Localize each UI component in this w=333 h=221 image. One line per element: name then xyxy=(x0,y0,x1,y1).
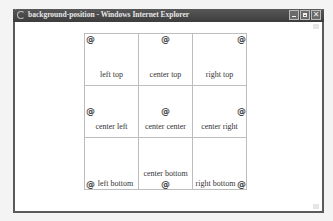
cell-left-top: @ left top xyxy=(85,34,139,86)
background-position-grid: @ left top @ center top @ right top @ ce… xyxy=(84,33,247,190)
cell-center-bottom: @ center bottom xyxy=(139,138,193,190)
at-marker-icon: @ xyxy=(161,107,169,115)
cell-right-bottom: @ right bottom xyxy=(193,138,247,190)
at-marker-icon: @ xyxy=(237,180,245,188)
cell-right-center: @ center right xyxy=(193,86,247,138)
at-marker-icon: @ xyxy=(86,35,94,43)
ie-logo-icon xyxy=(17,11,25,19)
at-marker-icon: @ xyxy=(86,107,94,115)
cell-label: left top xyxy=(85,70,138,79)
cell-label: center left xyxy=(85,122,138,131)
cell-label: right top xyxy=(193,70,246,79)
close-button[interactable]: ✕ xyxy=(311,10,321,20)
cell-left-bottom: @ left bottom xyxy=(85,138,139,190)
browser-window: background-position - Windows Internet E… xyxy=(13,9,324,213)
at-marker-icon: @ xyxy=(237,107,245,115)
title-bar[interactable]: background-position - Windows Internet E… xyxy=(13,9,324,22)
cell-center-top: @ center top xyxy=(139,34,193,86)
at-marker-icon: @ xyxy=(237,35,245,43)
cell-label: left bottom xyxy=(93,179,138,188)
cell-label: right bottom xyxy=(193,179,238,188)
cell-left-center: @ center left xyxy=(85,86,139,138)
at-marker-icon: @ xyxy=(161,180,169,188)
window-title: background-position - Windows Internet E… xyxy=(28,10,189,19)
scrollbar-down-arrow[interactable] xyxy=(313,204,319,209)
window-controls: ✕ xyxy=(289,10,321,20)
maximize-button[interactable] xyxy=(300,10,310,20)
cell-label: center top xyxy=(139,70,192,79)
cell-label: center center xyxy=(139,122,192,131)
cell-label: center right xyxy=(193,122,246,131)
at-marker-icon: @ xyxy=(161,35,169,43)
cell-right-top: @ right top xyxy=(193,34,247,86)
cell-center-center: @ center center xyxy=(139,86,193,138)
page-content: @ left top @ center top @ right top @ ce… xyxy=(15,22,322,211)
minimize-button[interactable] xyxy=(289,10,299,20)
cell-label: center bottom xyxy=(139,169,192,178)
scrollbar-up-arrow[interactable] xyxy=(313,24,319,29)
